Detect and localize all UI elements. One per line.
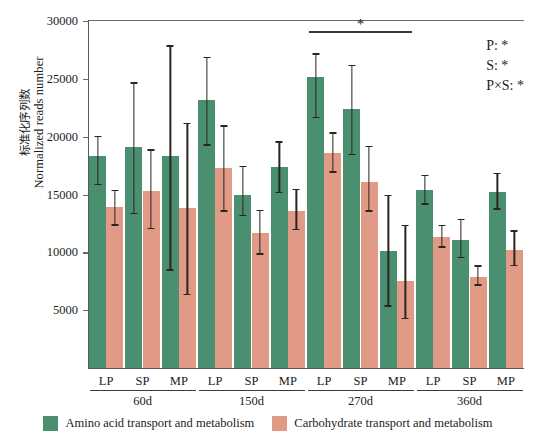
y-axis-tickmark-30000 — [83, 21, 88, 22]
errorbar-cap-lower — [475, 284, 482, 286]
errorbar-cap-lower — [94, 184, 101, 186]
errorbar-cap-lower — [167, 269, 174, 271]
errorbar-cap-upper — [276, 141, 283, 143]
errorbar-cap-lower — [329, 171, 336, 173]
errorbar-stem — [206, 57, 207, 146]
errorbar-150d-lp-series2 — [215, 125, 232, 212]
errorbar-cap-upper — [511, 230, 518, 232]
errorbar-cap-upper — [402, 225, 409, 227]
errorbar-cap-upper — [94, 136, 101, 138]
y-axis-title: 标准化序列数 Normalized reads number — [18, 7, 47, 239]
errorbar-stem — [351, 65, 352, 155]
bar-360d-sp-series1 — [452, 240, 469, 368]
errorbar-cap-upper — [257, 210, 264, 212]
errorbar-360d-sp-series1 — [452, 219, 469, 258]
annotation-label: P×S: — [486, 78, 513, 93]
errorbar-cap-lower — [111, 224, 118, 226]
errorbar-60d-mp-series2 — [179, 123, 196, 295]
x-axis-label-270d-mp: MP — [379, 374, 415, 388]
errorbar-cap-upper — [329, 132, 336, 134]
bar-150d-sp-series1 — [234, 195, 251, 369]
y-axis-tick-25000: 25000 — [22, 73, 78, 85]
errorbar-stem — [441, 225, 442, 248]
errorbar-cap-upper — [348, 65, 355, 67]
bar-150d-mp-series1 — [271, 167, 288, 368]
x-axis-label-360d-sp: SP — [451, 374, 487, 388]
annotation-1: P: * — [486, 36, 524, 56]
y-axis-tick-20000: 20000 — [22, 131, 78, 143]
y-axis-tickmark-10000 — [83, 252, 88, 253]
errorbar-cap-lower — [276, 192, 283, 194]
errorbar-stem — [150, 149, 151, 229]
errorbar-stem — [170, 45, 171, 271]
errorbar-stem — [368, 146, 369, 212]
annotation-label: P: — [486, 38, 498, 53]
bar-150d-mp-series2 — [288, 211, 305, 368]
errorbar-stem — [97, 136, 98, 186]
errorbar-cap-upper — [494, 173, 501, 175]
x-axis-label-360d-lp: LP — [415, 374, 451, 388]
group-rule-270d — [308, 390, 414, 391]
x-axis-group-label-360d: 360d — [417, 394, 523, 408]
errorbar-150d-mp-series1 — [271, 141, 288, 193]
bar-60d-lp-series2 — [106, 207, 123, 368]
errorbar-cap-lower — [312, 117, 319, 119]
y-axis-tickmark-15000 — [83, 195, 88, 196]
errorbar-cap-lower — [494, 208, 501, 210]
errorbar-cap-upper — [130, 82, 137, 84]
errorbar-270d-mp-series1 — [380, 195, 397, 307]
legend-label-2: Carbohydrate transport and metabolism — [294, 416, 492, 431]
errorbar-150d-lp-series1 — [198, 57, 215, 146]
x-axis-label-150d-lp: LP — [197, 374, 233, 388]
x-axis-label-150d-mp: MP — [270, 374, 306, 388]
annotation-2: S: * — [486, 56, 524, 76]
errorbar-360d-mp-series1 — [489, 173, 506, 210]
errorbar-360d-lp-series1 — [416, 175, 433, 205]
errorbar-cap-upper — [457, 219, 464, 221]
x-axis-label-270d-sp: SP — [342, 374, 378, 388]
errorbar-cap-upper — [203, 57, 210, 59]
errorbar-60d-mp-series1 — [162, 45, 179, 271]
x-axis-group-label-60d: 60d — [90, 394, 196, 408]
bar-360d-lp-series2 — [433, 237, 450, 368]
annotation-3: P×S: * — [486, 76, 524, 96]
errorbar-60d-lp-series2 — [106, 190, 123, 226]
legend-label-1: Amino acid transport and metabolism — [65, 416, 254, 431]
errorbar-stem — [114, 190, 115, 226]
errorbar-cap-upper — [111, 190, 118, 192]
y-axis-title-english: Normalized reads number — [32, 7, 47, 239]
errorbar-stem — [279, 141, 280, 193]
errorbar-cap-upper — [220, 125, 227, 127]
annotation-value: * — [514, 78, 525, 93]
errorbar-cap-lower — [148, 228, 155, 230]
legend-swatch-1 — [43, 416, 58, 431]
errorbar-360d-sp-series2 — [470, 265, 487, 286]
errorbar-60d-sp-series2 — [143, 149, 160, 229]
significance-bracket-label: * — [309, 18, 412, 30]
bar-270d-lp-series2 — [324, 153, 341, 368]
bar-60d-lp-series1 — [89, 156, 106, 368]
errorbar-stem — [296, 189, 297, 231]
errorbar-stem — [497, 173, 498, 210]
errorbar-cap-lower — [293, 229, 300, 231]
errorbar-cap-lower — [402, 318, 409, 320]
errorbar-150d-sp-series1 — [234, 166, 251, 217]
errorbar-stem — [388, 195, 389, 307]
errorbar-stem — [460, 219, 461, 258]
annotation-value: * — [498, 58, 509, 73]
bar-360d-mp-series1 — [489, 192, 506, 368]
x-axis-label-60d-mp: MP — [161, 374, 197, 388]
errorbar-stem — [133, 82, 134, 214]
errorbar-150d-sp-series2 — [252, 210, 269, 255]
y-axis-tickmark-20000 — [83, 137, 88, 138]
x-axis-label-60d-lp: LP — [88, 374, 124, 388]
errorbar-150d-mp-series2 — [288, 189, 305, 231]
y-axis-title-chinese: 标准化序列数 — [18, 7, 32, 239]
errorbar-cap-upper — [167, 45, 174, 47]
bar-360d-lp-series1 — [416, 190, 433, 368]
errorbar-270d-lp-series1 — [307, 53, 324, 118]
errorbar-cap-lower — [257, 253, 264, 255]
errorbar-stem — [259, 210, 260, 255]
errorbar-stem — [242, 166, 243, 217]
annotation-value: * — [498, 38, 509, 53]
